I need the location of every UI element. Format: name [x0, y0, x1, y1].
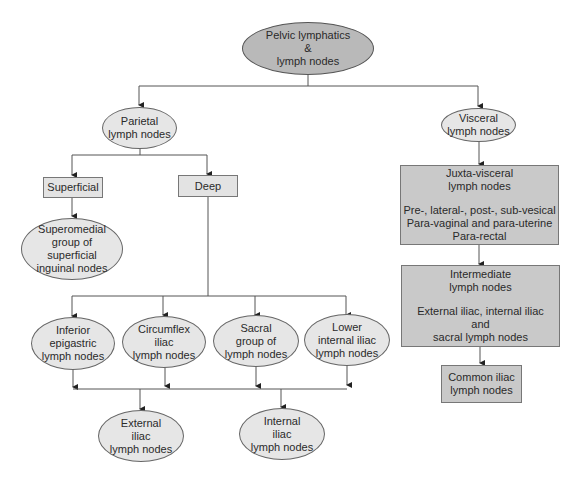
intermediate-detail: External iliac, internal iliac and sacra…: [417, 305, 544, 344]
common-iliac-box: Common iliac lymph nodes: [441, 365, 522, 403]
deep-box: Deep: [178, 175, 238, 197]
intermediate-box: Intermediate lymph nodes External iliac,…: [401, 265, 560, 347]
visceral-label: Visceral lymph nodes: [447, 112, 509, 138]
juxta-visceral-detail: Pre-, lateral-, post-, sub-vesical Para-…: [403, 204, 555, 243]
external-iliac-label: External iliac lymph nodes: [110, 417, 172, 456]
parietal-label: Parietal lymph nodes: [108, 115, 170, 141]
parietal-node: Parietal lymph nodes: [102, 107, 177, 149]
deep-label: Deep: [195, 180, 221, 193]
superomedial-inguinal-node: Superomedial group of superficial inguin…: [21, 218, 123, 280]
juxta-visceral-title: Juxta-visceral lymph nodes: [446, 167, 513, 193]
superficial-label: Superficial: [47, 181, 98, 194]
lower-internal-iliac-node: Lower internal iliac lymph nodes: [304, 314, 390, 366]
visceral-node: Visceral lymph nodes: [441, 108, 516, 142]
lymph-node-flowchart: Pelvic lymphatics & lymph nodes Parietal…: [0, 0, 575, 480]
inferior-epigastric-label: Inferior epigastric lymph nodes: [42, 324, 104, 363]
root-label: Pelvic lymphatics & lymph nodes: [266, 29, 350, 68]
external-iliac-node: External iliac lymph nodes: [98, 410, 184, 462]
internal-iliac-node: Internal iliac lymph nodes: [239, 408, 325, 460]
circumflex-iliac-label: Circumflex iliac lymph nodes: [133, 323, 195, 362]
juxta-visceral-box: Juxta-visceral lymph nodes Pre-, lateral…: [400, 165, 559, 245]
intermediate-title: Intermediate lymph nodes: [449, 268, 511, 294]
superomedial-label: Superomedial group of superficial inguin…: [37, 223, 108, 275]
internal-iliac-label: Internal iliac lymph nodes: [251, 415, 313, 454]
common-iliac-label: Common iliac lymph nodes: [448, 371, 515, 397]
sacral-group-node: Sacral group of lymph nodes: [213, 315, 299, 367]
circumflex-iliac-node: Circumflex iliac lymph nodes: [122, 316, 206, 368]
superficial-box: Superficial: [43, 177, 103, 198]
sacral-group-label: Sacral group of lymph nodes: [225, 322, 287, 361]
inferior-epigastric-node: Inferior epigastric lymph nodes: [31, 317, 115, 370]
lower-internal-iliac-label: Lower internal iliac lymph nodes: [316, 321, 378, 360]
root-node-pelvic-lymphatics: Pelvic lymphatics & lymph nodes: [242, 22, 374, 75]
